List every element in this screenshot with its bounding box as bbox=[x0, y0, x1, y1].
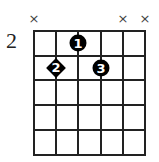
fretboard-grid bbox=[0, 0, 159, 162]
finger-3-label: 3 bbox=[96, 61, 105, 76]
finger-1-dot: 1 bbox=[70, 35, 87, 52]
finger-2-diamond: 2 bbox=[46, 58, 66, 78]
finger-2-label: 2 bbox=[49, 61, 63, 75]
finger-3-dot: 3 bbox=[93, 60, 110, 77]
finger-1-label: 1 bbox=[73, 36, 82, 51]
